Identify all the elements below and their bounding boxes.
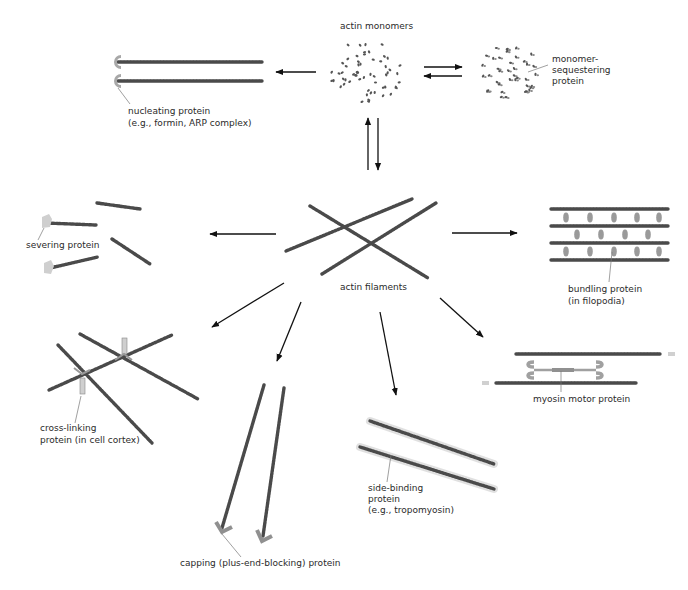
sequestering-label-line-1: monomer- [552, 54, 598, 64]
actin-monomers-label: actin monomers [340, 21, 414, 31]
capped-filament-2 [263, 388, 284, 536]
arrow-filaments-to-sidebinding [380, 312, 396, 395]
myosin-label: myosin motor protein [533, 394, 630, 404]
severing-leader-line [38, 228, 44, 240]
crosslinking-label-line-2: protein (in cell cortex) [40, 435, 140, 445]
severed-fragment-3 [112, 239, 150, 264]
capping-group: capping (plus-end-blocking) protein [180, 385, 340, 568]
arrow-filaments-to-crosslinking [212, 283, 284, 327]
sidebinding-label-line-2: protein [368, 494, 400, 504]
crosslinking-label-line-1: cross-linking [40, 423, 96, 433]
myosin-head-right [596, 362, 602, 378]
bundling-label-line-2: (in filopodia) [568, 296, 625, 306]
severing-protein-icon-1 [42, 214, 52, 228]
myosin-group: myosin motor protein [482, 354, 675, 404]
capping-label: capping (plus-end-blocking) protein [180, 558, 340, 568]
bundling-label-line-1: bundling protein [568, 284, 642, 294]
sequestering-label-line-3: protein [552, 76, 584, 86]
severing-label: severing protein [26, 240, 100, 250]
sequestered-monomer-dots [481, 46, 539, 99]
monomer-dots [330, 43, 402, 104]
sidebinding-label-line-1: side-binding [368, 483, 423, 493]
sidebinding-label-line-3: (e.g., tropomyosin) [368, 505, 454, 515]
bundling-group: bundling protein (in filopodia) [551, 209, 668, 306]
severing-protein-icon-2 [44, 260, 54, 274]
sequestering-leader-line [528, 65, 548, 72]
bundling-leader-line [609, 252, 612, 282]
sequestering-label-line-2: sequestering [552, 65, 611, 75]
myosin-thick-segment [552, 368, 574, 372]
sidebinding-group: side-binding protein (e.g., tropomyosin) [360, 421, 494, 515]
actin-binding-protein-diagram: actin monomers monomer- sequestering pro… [0, 0, 688, 590]
nucleating-label-line-1: nucleating protein [128, 106, 210, 116]
severed-fragment-4 [50, 257, 98, 268]
bundling-protein-icons [563, 213, 662, 257]
capping-leader-line [222, 534, 241, 557]
sequestering-cluster: monomer- sequestering protein [481, 46, 611, 99]
crosslinking-leader-line [75, 396, 81, 423]
actin-filaments-label: actin filaments [340, 282, 407, 292]
actin-filaments-center: actin filaments [286, 199, 436, 292]
crosslinking-group: cross-linking protein (in cell cortex) [40, 334, 198, 445]
severing-group: severing protein [26, 203, 150, 274]
crosslinking-protein-icon-2 [80, 378, 85, 394]
actin-monomers-cluster: actin monomers [330, 21, 414, 103]
severed-fragment-1 [97, 203, 140, 209]
arrow-filaments-to-capping [277, 302, 301, 361]
severed-fragment-2 [46, 223, 96, 225]
crosslinking-protein-icon-1 [122, 338, 127, 354]
arrow-filaments-to-myosin [440, 298, 483, 337]
crosslink-filament-2 [49, 335, 172, 390]
nucleating-leader-line [118, 88, 130, 104]
capped-filament-1 [222, 385, 264, 528]
myosin-head-left [528, 362, 534, 378]
center-filament-2 [286, 199, 412, 251]
nucleating-group: nucleating protein (e.g., formin, ARP co… [114, 55, 262, 128]
nucleating-label-line-2: (e.g., formin, ARP complex) [128, 118, 251, 128]
